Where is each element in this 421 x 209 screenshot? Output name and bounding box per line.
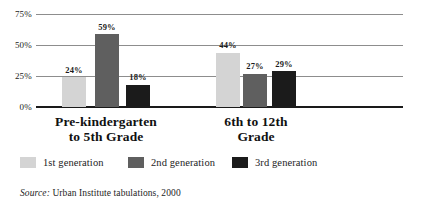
- bar-value-label: 18%: [115, 72, 161, 82]
- plot-area: 24% 59% 18% 44% 27% 29%: [36, 14, 403, 107]
- category-label-line: Grade: [156, 129, 356, 144]
- legend-item-1st-generation: 1st generation: [20, 157, 104, 168]
- legend-item-3rd-generation: 3rd generation: [232, 157, 317, 168]
- bar-g2-3rd-generation: [272, 71, 296, 107]
- source-note-text: Urban Institute tabulations, 2000: [52, 188, 180, 198]
- gridline-75: [36, 14, 403, 15]
- bar-value-label: 29%: [261, 59, 307, 69]
- bar-g1-1st-generation: [62, 77, 86, 107]
- source-note-prefix: Source:: [20, 188, 50, 198]
- legend-label: 1st generation: [43, 157, 104, 168]
- category-label-6th-12th: 6th to 12th Grade: [156, 114, 356, 144]
- y-axis-tick-label: 0%: [0, 102, 32, 112]
- bar-value-label: 44%: [205, 40, 251, 50]
- y-axis-tick-label: 25%: [0, 71, 32, 81]
- legend-item-2nd-generation: 2nd generation: [128, 157, 215, 168]
- legend-label: 2nd generation: [151, 157, 215, 168]
- category-label-line: 6th to 12th: [156, 114, 356, 129]
- bar-value-label: 59%: [84, 22, 130, 32]
- bar-g1-3rd-generation: [126, 85, 150, 107]
- legend-label: 3rd generation: [255, 157, 317, 168]
- y-axis-tick-label: 75%: [0, 9, 32, 19]
- bar-value-label: 24%: [51, 65, 97, 75]
- legend-swatch-icon: [20, 157, 36, 168]
- legend-swatch-icon: [232, 157, 248, 168]
- chart-figure: 75% 50% 25% 0% 24% 59% 18% 44% 27% 29% P…: [0, 0, 421, 209]
- bar-g2-2nd-generation: [243, 74, 267, 108]
- legend: 1st generation 2nd generation 3rd genera…: [0, 157, 421, 175]
- source-note: Source: Urban Institute tabulations, 200…: [20, 188, 181, 198]
- legend-swatch-icon: [128, 157, 144, 168]
- y-axis-tick-label: 50%: [0, 40, 32, 50]
- bar-g1-2nd-generation: [95, 34, 119, 107]
